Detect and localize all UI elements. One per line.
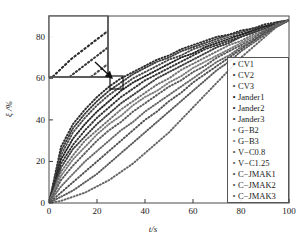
legend-label: C−JMAK3 — [238, 191, 276, 202]
legend-label: G−B3 — [238, 136, 259, 147]
legend-marker-icon: • — [230, 92, 238, 103]
legend-item-cv2[interactable]: •CV2 — [230, 70, 288, 81]
y-axis-label: ξ /% — [4, 86, 14, 132]
legend-label: Jander1 — [238, 92, 264, 103]
legend-label: CV2 — [238, 70, 254, 81]
legend-label: V−C0.8 — [238, 147, 265, 158]
legend-item-jander2[interactable]: •Jander2 — [230, 103, 288, 114]
y-tick-label: 60 — [29, 73, 45, 83]
legend-item-c-jmak3[interactable]: •C−JMAK3 — [230, 191, 288, 202]
legend-item-v-c1-25[interactable]: •V−C1.25 — [230, 158, 288, 169]
legend-label: Jander3 — [238, 114, 264, 125]
legend-marker-icon: • — [230, 191, 238, 202]
chart-figure: t/s ξ /% 020406080100020406080 •CV1•CV2•… — [0, 0, 306, 244]
x-tick-label: 100 — [282, 206, 296, 216]
legend-item-jander1[interactable]: •Jander1 — [230, 92, 288, 103]
legend-marker-icon: • — [230, 169, 238, 180]
inset-frame — [49, 16, 108, 77]
legend-item-c-jmak1[interactable]: •C−JMAK1 — [230, 169, 288, 180]
y-tick-label: 0 — [29, 198, 45, 208]
legend-label: CV1 — [238, 59, 254, 70]
legend-marker-icon: • — [230, 81, 238, 92]
legend: •CV1•CV2•CV3•Jander1•Jander2•Jander3•G−B… — [227, 57, 289, 203]
legend-item-jander3[interactable]: •Jander3 — [230, 114, 288, 125]
legend-item-g-b2[interactable]: •G−B2 — [230, 125, 288, 136]
legend-marker-icon: • — [230, 147, 238, 158]
legend-item-cv3[interactable]: •CV3 — [230, 81, 288, 92]
y-tick-label: 40 — [29, 115, 45, 125]
x-tick-label: 0 — [47, 206, 52, 216]
legend-label: C−JMAK1 — [238, 169, 276, 180]
legend-label: V−C1.25 — [238, 158, 269, 169]
y-tick-label: 80 — [29, 32, 45, 42]
legend-label: Jander2 — [238, 103, 264, 114]
x-tick-label: 80 — [237, 206, 246, 216]
legend-item-g-b3[interactable]: •G−B3 — [230, 136, 288, 147]
x-tick-label: 40 — [141, 206, 150, 216]
x-tick-label: 20 — [93, 206, 102, 216]
legend-marker-icon: • — [230, 180, 238, 191]
legend-item-cv1[interactable]: •CV1 — [230, 59, 288, 70]
legend-label: C−JMAK2 — [238, 180, 276, 191]
legend-label: G−B2 — [238, 125, 259, 136]
legend-item-v-c0-8[interactable]: •V−C0.8 — [230, 147, 288, 158]
legend-item-c-jmak2[interactable]: •C−JMAK2 — [230, 180, 288, 191]
legend-marker-icon: • — [230, 125, 238, 136]
x-tick-label: 60 — [189, 206, 198, 216]
legend-marker-icon: • — [230, 136, 238, 147]
y-tick-label: 20 — [29, 156, 45, 166]
legend-label: CV3 — [238, 81, 254, 92]
legend-marker-icon: • — [230, 158, 238, 169]
legend-marker-icon: • — [230, 114, 238, 125]
legend-marker-icon: • — [230, 59, 238, 70]
legend-marker-icon: • — [230, 70, 238, 81]
x-axis-label: t/s — [0, 224, 306, 234]
legend-marker-icon: • — [230, 103, 238, 114]
